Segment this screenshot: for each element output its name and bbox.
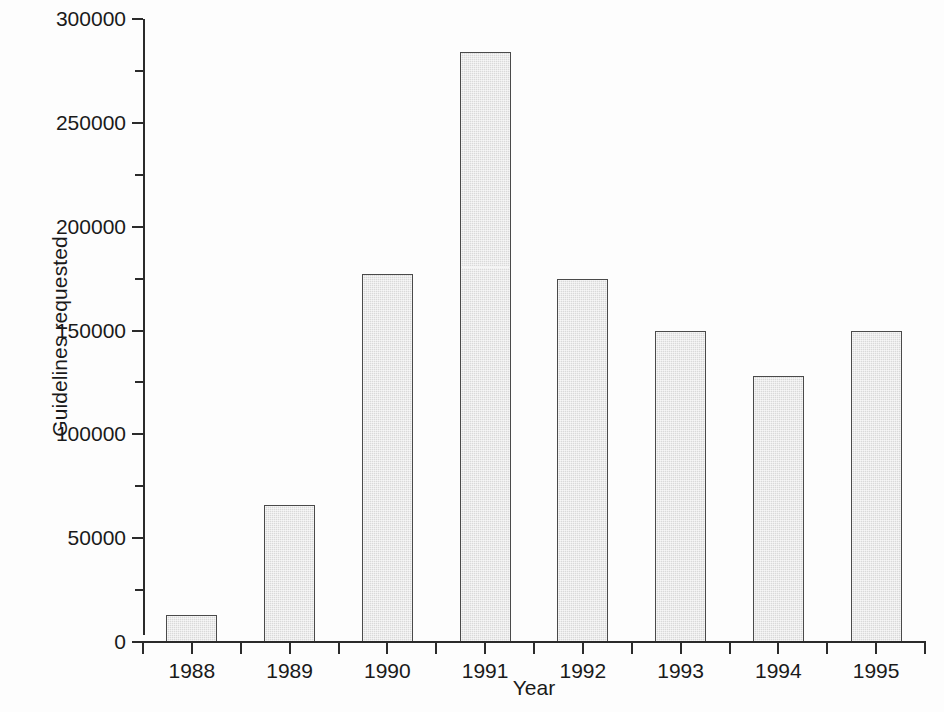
bar-seam <box>462 266 509 268</box>
x-axis-tick-boundary <box>533 643 535 654</box>
y-axis-tick-minor <box>135 381 143 383</box>
x-axis-tick-boundary <box>826 643 828 654</box>
y-axis-tick-label: 300000 <box>6 8 126 29</box>
y-axis-tick-label: 150000 <box>6 320 126 341</box>
y-axis-tick-labels: 050000100000150000200000250000300000 <box>0 0 126 712</box>
x-axis-title: Year <box>143 676 925 700</box>
y-axis-tick-minor <box>135 278 143 280</box>
y-axis-tick-major <box>132 122 143 124</box>
y-axis-tick-label: 100000 <box>6 423 126 444</box>
y-axis-tick-label: 200000 <box>6 216 126 237</box>
y-axis-tick-minor <box>135 70 143 72</box>
x-axis-tick <box>289 643 291 654</box>
x-axis-tick-boundary <box>338 643 340 654</box>
x-axis-tick-boundary <box>729 643 731 654</box>
x-axis-tick <box>191 643 193 654</box>
x-axis-tick <box>386 643 388 654</box>
bar <box>460 52 511 642</box>
y-axis-tick-major <box>132 226 143 228</box>
y-axis-tick-minor <box>135 589 143 591</box>
bar <box>264 505 315 642</box>
y-axis-tick-major <box>132 330 143 332</box>
y-axis-tick-label: 0 <box>6 631 126 652</box>
x-axis-tick <box>484 643 486 654</box>
y-axis-tick-label: 250000 <box>6 112 126 133</box>
y-axis-tick-minor <box>135 485 143 487</box>
bar-chart-figure: Guidelines requested 0500001000001500002… <box>0 0 944 712</box>
x-axis-tick-boundary <box>631 643 633 654</box>
x-axis-tick <box>777 643 779 654</box>
x-axis-tick <box>875 643 877 654</box>
bar <box>753 376 804 642</box>
x-axis-tick-boundary <box>435 643 437 654</box>
y-axis-tick-major <box>132 537 143 539</box>
x-axis-tick-boundary <box>142 643 144 654</box>
bar <box>851 331 902 643</box>
bar <box>362 274 413 642</box>
x-axis-tick <box>680 643 682 654</box>
bar <box>557 279 608 642</box>
y-axis-tick-minor <box>135 174 143 176</box>
x-axis-tick-boundary <box>240 643 242 654</box>
y-axis-tick-label: 50000 <box>6 527 126 548</box>
bar <box>655 331 706 643</box>
y-axis-tick-major <box>132 18 143 20</box>
x-axis-tick <box>582 643 584 654</box>
y-axis-tick-major <box>132 433 143 435</box>
x-axis-tick-boundary <box>924 643 926 654</box>
bars-layer <box>143 19 926 642</box>
bar <box>166 615 217 642</box>
